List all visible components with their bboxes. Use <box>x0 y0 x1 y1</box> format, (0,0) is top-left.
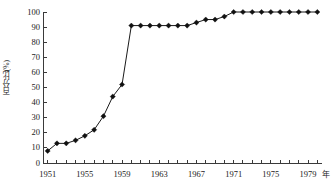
data-point-marker <box>212 17 217 22</box>
data-point-marker <box>73 138 78 143</box>
data-point-marker <box>287 9 292 14</box>
data-point-marker <box>129 23 134 28</box>
data-point-marker <box>203 17 208 22</box>
x-axis-tick-label: 1951 <box>28 170 68 179</box>
data-point-marker <box>82 133 87 138</box>
series-line <box>48 12 318 151</box>
x-axis-tick-label: 1975 <box>251 170 291 179</box>
x-axis-unit-label: 年 <box>322 170 330 179</box>
data-point-marker <box>222 14 227 19</box>
data-point-marker <box>259 9 264 14</box>
data-point-marker <box>64 141 69 146</box>
data-point-marker <box>296 9 301 14</box>
data-point-marker <box>157 23 162 28</box>
data-point-marker <box>240 9 245 14</box>
data-point-marker <box>315 9 320 14</box>
data-point-marker <box>278 9 283 14</box>
data-point-marker <box>175 23 180 28</box>
data-point-marker <box>268 9 273 14</box>
data-point-marker <box>166 23 171 28</box>
data-point-marker <box>250 9 255 14</box>
x-axis-tick-label: 1963 <box>139 170 179 179</box>
data-point-marker <box>185 23 190 28</box>
axis-lines <box>43 12 322 163</box>
x-axis-tick-label: 1955 <box>65 170 105 179</box>
data-point-marker <box>194 20 199 25</box>
x-axis-tick-label: 1959 <box>102 170 142 179</box>
data-point-marker <box>147 23 152 28</box>
data-point-marker <box>138 23 143 28</box>
plot-svg <box>0 0 336 196</box>
x-axis-tick-label: 1967 <box>176 170 216 179</box>
chart-container: 百分比(%) 0102030405060708090100 1951195519… <box>0 0 336 196</box>
data-point-marker <box>305 9 310 14</box>
x-axis-tick-label: 1971 <box>214 170 254 179</box>
data-point-marker <box>231 9 236 14</box>
